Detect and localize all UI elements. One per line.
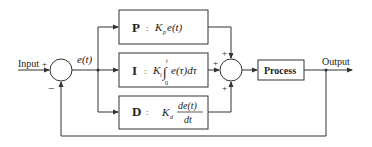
svg-text:0: 0 [165,80,168,86]
i-letter: I [132,63,137,78]
svg-text:+: + [222,83,227,93]
svg-text:e(t): e(t) [167,21,183,34]
svg-text::: : [146,107,149,117]
svg-text:+: + [213,58,218,68]
pid-diagram: Input + − e(t) P : K p e(t) I : K i ∫ t … [0,0,372,147]
svg-text::: : [144,66,147,76]
svg-text::: : [146,23,149,33]
svg-text:dt: dt [184,114,192,125]
input-label: Input [18,58,39,69]
output-label: Output [322,56,350,67]
svg-text:p: p [162,29,166,35]
svg-text:+: + [222,48,227,58]
feedback-sign: − [48,82,54,94]
pid-summing-junction [220,59,242,81]
error-summing-junction [50,59,72,81]
svg-text:e(τ)dτ: e(τ)dτ [171,64,198,77]
input-sign: + [42,59,47,69]
svg-text:K: K [161,106,170,118]
process-label: Process [264,65,296,76]
p-letter: P [132,20,140,35]
svg-text:de(t): de(t) [178,100,198,112]
error-label: e(t) [77,53,93,66]
d-letter: D [132,104,141,119]
svg-text:K: K [154,21,163,33]
